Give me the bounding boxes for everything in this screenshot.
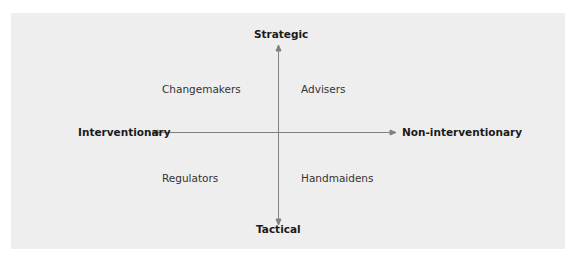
axis-label-strategic: Strategic bbox=[254, 28, 308, 40]
quadrant-label-regulators: Regulators bbox=[162, 172, 218, 184]
quadrant-label-advisers: Advisers bbox=[301, 83, 346, 95]
quadrant-label-handmaidens: Handmaidens bbox=[301, 172, 373, 184]
axis-label-interventionary: Interventionary bbox=[78, 126, 171, 138]
right-arrowhead-icon bbox=[390, 130, 396, 135]
up-arrowhead-icon bbox=[276, 45, 281, 51]
quadrant-label-changemakers: Changemakers bbox=[162, 83, 241, 95]
axis-label-tactical: Tactical bbox=[256, 223, 301, 235]
axis-label-non-interventionary: Non-interventionary bbox=[402, 126, 522, 138]
